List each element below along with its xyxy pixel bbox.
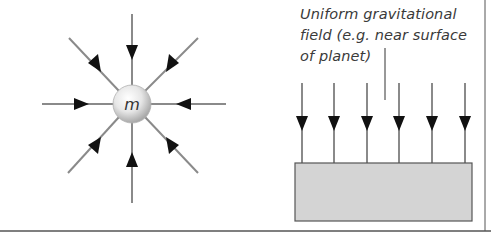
arrowhead-icon: [88, 54, 101, 72]
arrowhead-icon: [328, 116, 340, 131]
arrowhead-icon: [361, 116, 373, 131]
arrowhead-icon: [126, 45, 138, 60]
arrowhead-icon: [166, 54, 179, 72]
arrowhead-icon: [426, 116, 438, 131]
caption-line-3: of planet): [300, 46, 490, 67]
caption-line-2: field (e.g. near surface: [300, 25, 490, 46]
gravitational-field-diagram: m Uniform gravitational field (e.g. near…: [0, 0, 491, 233]
arrowhead-icon: [176, 98, 191, 110]
arrowhead-icon: [459, 116, 471, 131]
arrowhead-icon: [393, 116, 405, 131]
arrowhead-icon: [126, 152, 138, 167]
arrowhead-icon: [74, 98, 89, 110]
mass-label: m: [124, 95, 140, 114]
arrowhead-icon: [88, 137, 101, 154]
uniform-field-caption: Uniform gravitational field (e.g. near s…: [300, 4, 490, 67]
arrowhead-icon: [296, 116, 308, 131]
uniform-arrowheads: [296, 116, 471, 131]
caption-line-1: Uniform gravitational: [300, 4, 490, 25]
uniform-field: [302, 83, 465, 163]
planet-surface: [295, 163, 472, 221]
